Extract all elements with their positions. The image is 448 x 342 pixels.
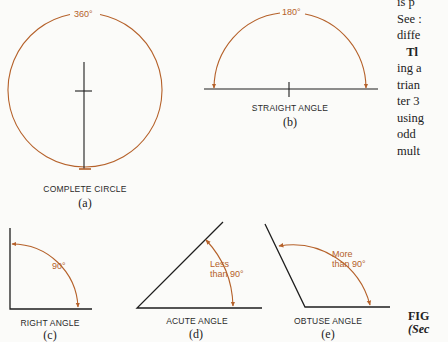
label-180: 180° (280, 7, 303, 17)
body-line: odd (397, 126, 424, 143)
body-text-column: is pSee :diffe Tling atrianter 3usingodd… (397, 0, 424, 159)
body-line: is p (397, 0, 424, 11)
body-line: trian (397, 77, 424, 94)
panel-c-title: RIGHT ANGLE (20, 318, 79, 328)
panel-a-title: COMPLETE CIRCLE (43, 184, 126, 194)
obtuse-angle-diagram (265, 224, 390, 307)
panel-c-sub: (c) (43, 328, 56, 342)
figure-caption: FIG (Sec (408, 310, 429, 336)
panel-d-sub: (d) (189, 327, 203, 342)
label-than-90-obtuse: than 90° (332, 259, 366, 269)
body-line: ing a (397, 60, 424, 77)
panel-e-sub: (e) (321, 327, 334, 342)
caption-line1: FIG (408, 309, 429, 323)
label-less: Less (210, 259, 229, 269)
angles-figure (0, 0, 448, 342)
label-less-than-90: Less than 90° (210, 259, 244, 279)
label-more-than-90: More than 90° (332, 249, 366, 269)
straight-angle-diagram (204, 13, 378, 97)
panel-a-sub: (a) (78, 196, 91, 211)
complete-circle-diagram (8, 15, 162, 170)
panel-b-title: STRAIGHT ANGLE (252, 103, 328, 113)
body-line: See : (397, 11, 424, 28)
right-angle-diagram (10, 228, 92, 309)
body-line: ter 3 (397, 93, 424, 110)
label-90: 90° (52, 261, 66, 271)
body-line: Tl (397, 44, 424, 61)
label-than-90-acute: than 90° (210, 269, 244, 279)
label-more: More (332, 249, 353, 259)
body-line: mult (397, 143, 424, 160)
body-line: diffe (397, 27, 424, 44)
caption-line2: (Sec (408, 322, 429, 336)
panel-b-sub: (b) (283, 115, 297, 130)
panel-e-title: OBTUSE ANGLE (294, 316, 362, 326)
body-line: using (397, 110, 424, 127)
panel-d-title: ACUTE ANGLE (166, 316, 228, 326)
label-360: 360° (72, 9, 95, 19)
